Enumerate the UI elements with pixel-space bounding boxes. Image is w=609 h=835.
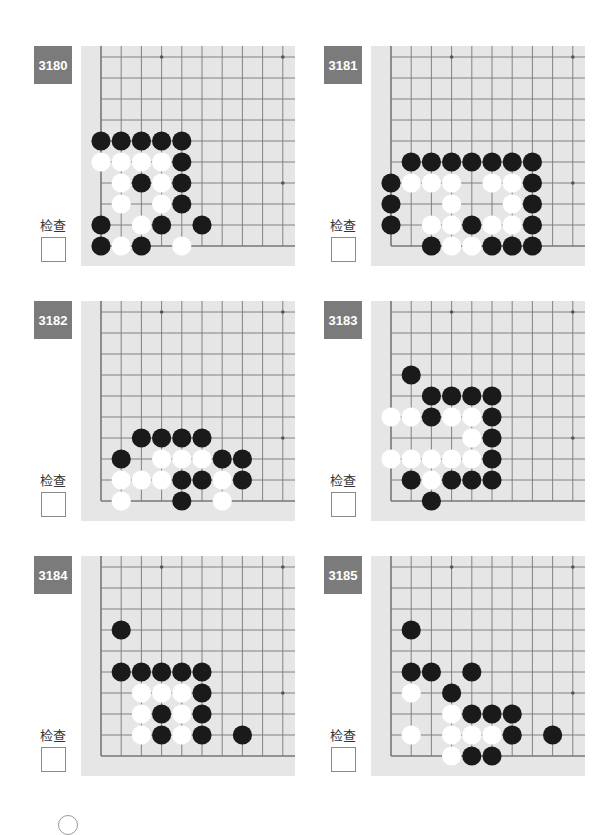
black-stone — [132, 236, 151, 255]
black-stone — [523, 215, 542, 234]
white-stone — [503, 173, 522, 192]
problem-number-badge: 3183 — [324, 301, 362, 339]
white-stone — [462, 725, 481, 744]
black-stone — [462, 152, 481, 171]
problem-number-badge: 3181 — [324, 46, 362, 84]
black-stone — [422, 236, 441, 255]
white-stone — [482, 173, 501, 192]
problem-3181: 3181 检查 — [324, 46, 594, 271]
black-stone — [503, 725, 522, 744]
black-stone — [152, 131, 171, 150]
check-checkbox[interactable] — [331, 237, 356, 262]
black-stone — [402, 470, 421, 489]
black-stone — [152, 215, 171, 234]
check-checkbox[interactable] — [41, 492, 66, 517]
problem-number-badge: 3185 — [324, 556, 362, 594]
black-stone — [462, 662, 481, 681]
black-stone — [112, 449, 131, 468]
black-stone — [172, 428, 191, 447]
white-stone — [112, 152, 131, 171]
board-grid — [371, 46, 585, 266]
check-checkbox[interactable] — [41, 237, 66, 262]
check-checkbox[interactable] — [331, 492, 356, 517]
white-stone — [422, 470, 441, 489]
board-grid — [371, 301, 585, 521]
star-point — [281, 310, 285, 314]
black-stone — [213, 449, 232, 468]
black-stone — [381, 173, 400, 192]
check-checkbox[interactable] — [41, 747, 66, 772]
white-stone — [462, 449, 481, 468]
white-stone — [112, 173, 131, 192]
problem-3180: 3180 检查 — [34, 46, 304, 271]
white-stone — [442, 194, 461, 213]
white-stone — [442, 236, 461, 255]
black-stone — [192, 470, 211, 489]
problem-3183: 3183 检查 — [324, 301, 594, 526]
black-stone — [462, 386, 481, 405]
black-stone — [462, 215, 481, 234]
black-stone — [503, 152, 522, 171]
white-stone — [402, 407, 421, 426]
white-stone — [422, 173, 441, 192]
problem-number-badge: 3180 — [34, 46, 72, 84]
black-stone — [402, 620, 421, 639]
black-stone — [152, 704, 171, 723]
black-stone — [442, 470, 461, 489]
black-stone — [482, 746, 501, 765]
black-stone — [422, 407, 441, 426]
black-stone — [482, 152, 501, 171]
black-stone — [402, 152, 421, 171]
check-label: 检查 — [40, 215, 66, 234]
check-label: 检查 — [330, 215, 356, 234]
check-label: 检查 — [330, 470, 356, 489]
white-stone — [112, 236, 131, 255]
white-stone — [442, 215, 461, 234]
black-stone — [462, 746, 481, 765]
black-stone — [402, 662, 421, 681]
white-stone — [422, 449, 441, 468]
black-stone — [482, 704, 501, 723]
board-grid — [81, 556, 295, 776]
white-stone — [213, 470, 232, 489]
star-point — [450, 565, 454, 569]
star-point — [450, 310, 454, 314]
black-stone — [233, 725, 252, 744]
black-stone — [172, 662, 191, 681]
white-stone — [132, 725, 151, 744]
problem-3185: 3185 检查 — [324, 556, 594, 781]
white-stone — [442, 449, 461, 468]
black-stone — [192, 683, 211, 702]
board-grid — [81, 46, 295, 266]
black-stone — [523, 152, 542, 171]
star-point — [160, 55, 164, 59]
star-point — [571, 181, 575, 185]
black-stone — [523, 173, 542, 192]
black-stone — [422, 152, 441, 171]
white-stone — [422, 215, 441, 234]
check-checkbox[interactable] — [331, 747, 356, 772]
black-stone — [132, 662, 151, 681]
white-stone — [112, 491, 131, 510]
star-point — [281, 55, 285, 59]
check-label: 检查 — [40, 470, 66, 489]
white-stone — [402, 449, 421, 468]
black-stone — [402, 365, 421, 384]
star-point — [571, 565, 575, 569]
black-stone — [132, 173, 151, 192]
star-point — [160, 310, 164, 314]
black-stone — [192, 725, 211, 744]
black-stone — [192, 428, 211, 447]
white-stone — [172, 704, 191, 723]
black-stone — [462, 470, 481, 489]
black-stone — [132, 428, 151, 447]
black-stone — [442, 152, 461, 171]
black-stone — [91, 236, 110, 255]
white-stone — [152, 449, 171, 468]
black-stone — [172, 152, 191, 171]
white-stone — [192, 449, 211, 468]
white-stone — [442, 725, 461, 744]
go-board — [371, 556, 585, 776]
white-stone — [152, 194, 171, 213]
star-point — [571, 436, 575, 440]
